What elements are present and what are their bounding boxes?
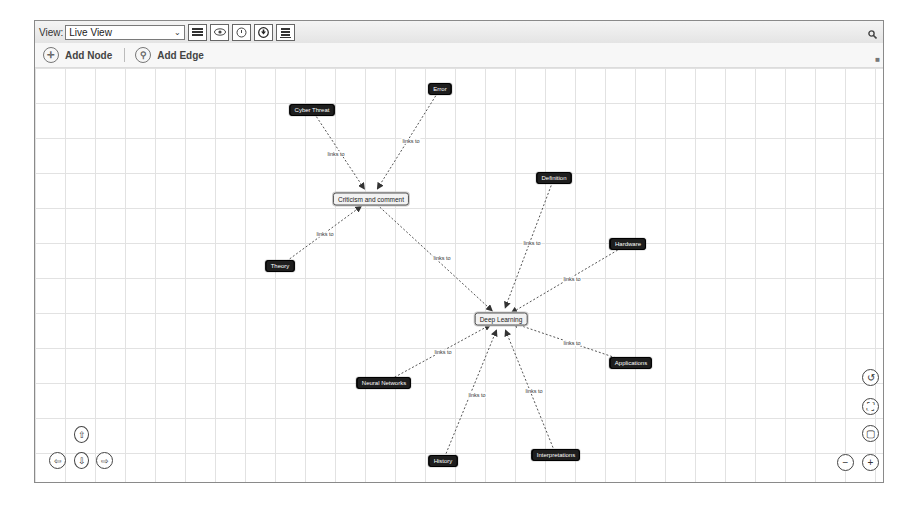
arrow-left-icon: ⇦ (54, 456, 62, 466)
refresh-layout-button[interactable]: ↺ (862, 369, 879, 386)
divider (124, 48, 125, 62)
add-node-button[interactable]: ✛ Add Node (43, 47, 112, 63)
add-node-icon: ✛ (43, 47, 59, 63)
graph-node-theory[interactable]: Theory (266, 260, 295, 272)
timer-button[interactable] (232, 24, 251, 41)
fit-screen-button[interactable]: ⛶ (862, 398, 879, 415)
edge-label: links to (315, 231, 334, 237)
plus-icon: + (868, 457, 874, 468)
close-icon[interactable]: ■ (875, 55, 880, 64)
add-node-label: Add Node (65, 50, 112, 61)
action-bar: ✛ Add Node ⚲ Add Edge (35, 43, 883, 68)
arrow-right-icon: ⇨ (101, 456, 109, 466)
minus-icon: − (843, 457, 849, 468)
graph-node-error[interactable]: Error (428, 83, 451, 95)
top-toolbar: View: Live View ⌄ (35, 21, 883, 44)
edge-label: links to (562, 276, 581, 282)
reset-zoom-button[interactable]: ▢ (862, 425, 879, 442)
graph-node-history[interactable]: History (429, 455, 458, 467)
list-icon (192, 27, 203, 37)
edge-label: links to (401, 138, 420, 144)
graph-node-neural[interactable]: Neural Networks (357, 377, 411, 389)
arrow-down-icon: ⇩ (78, 456, 86, 466)
add-edge-button[interactable]: ⚲ Add Edge (135, 47, 204, 63)
stack-button[interactable] (276, 24, 295, 41)
pan-left-button[interactable]: ⇦ (49, 452, 66, 469)
graph-node-interp[interactable]: Interpretations (532, 449, 580, 461)
view-select[interactable]: Live View ⌄ (65, 25, 185, 40)
graph-node-hardware[interactable]: Hardware (610, 238, 646, 250)
expand-icon: ⛶ (867, 401, 874, 413)
edge-label: links to (522, 240, 541, 246)
add-edge-icon: ⚲ (135, 47, 151, 63)
graph-node-cyber[interactable]: Cyber Threat (290, 104, 335, 116)
add-edge-label: Add Edge (157, 50, 204, 61)
pan-down-button[interactable]: ⇩ (74, 452, 89, 469)
pan-right-button[interactable]: ⇨ (96, 452, 113, 469)
graph-node-definition[interactable]: Definition (536, 172, 571, 184)
edge-label: links to (326, 151, 345, 157)
edge-label: links to (467, 392, 486, 398)
edges-layer (35, 68, 883, 482)
graph-canvas[interactable]: links tolinks tolinks tolinks tolinks to… (35, 68, 883, 482)
graph-node-crit[interactable]: Criticism and comment (333, 193, 409, 206)
graph-editor-window: View: Live View ⌄ ✛ Add Node ⚲ (34, 20, 884, 483)
edge-label: links to (562, 340, 581, 346)
view-label: View: (39, 27, 63, 38)
edge-label: links to (432, 255, 451, 261)
chevron-down-icon: ⌄ (174, 28, 181, 37)
search-icon[interactable] (868, 25, 877, 43)
graph-node-deep[interactable]: Deep Learning (475, 313, 528, 326)
pan-up-button[interactable]: ⇧ (74, 426, 89, 443)
eye-icon (214, 28, 226, 36)
view-select-value: Live View (69, 27, 112, 38)
eye-button[interactable] (210, 24, 229, 41)
edge-label: links to (524, 388, 543, 394)
arrow-up-icon: ⇧ (78, 430, 86, 440)
list-button[interactable] (188, 24, 207, 41)
zoom-out-button[interactable]: − (837, 454, 854, 471)
edge-label: links to (433, 349, 452, 355)
zoom-in-button[interactable]: + (862, 454, 879, 471)
download-button[interactable] (254, 24, 273, 41)
refresh-icon: ↺ (867, 372, 875, 383)
reset-icon: ▢ (866, 428, 875, 439)
edge-cyber-crit[interactable] (312, 110, 364, 189)
stack-icon (280, 27, 291, 38)
timer-icon (236, 27, 247, 38)
graph-node-applications[interactable]: Applications (610, 357, 652, 369)
download-icon (258, 27, 269, 38)
